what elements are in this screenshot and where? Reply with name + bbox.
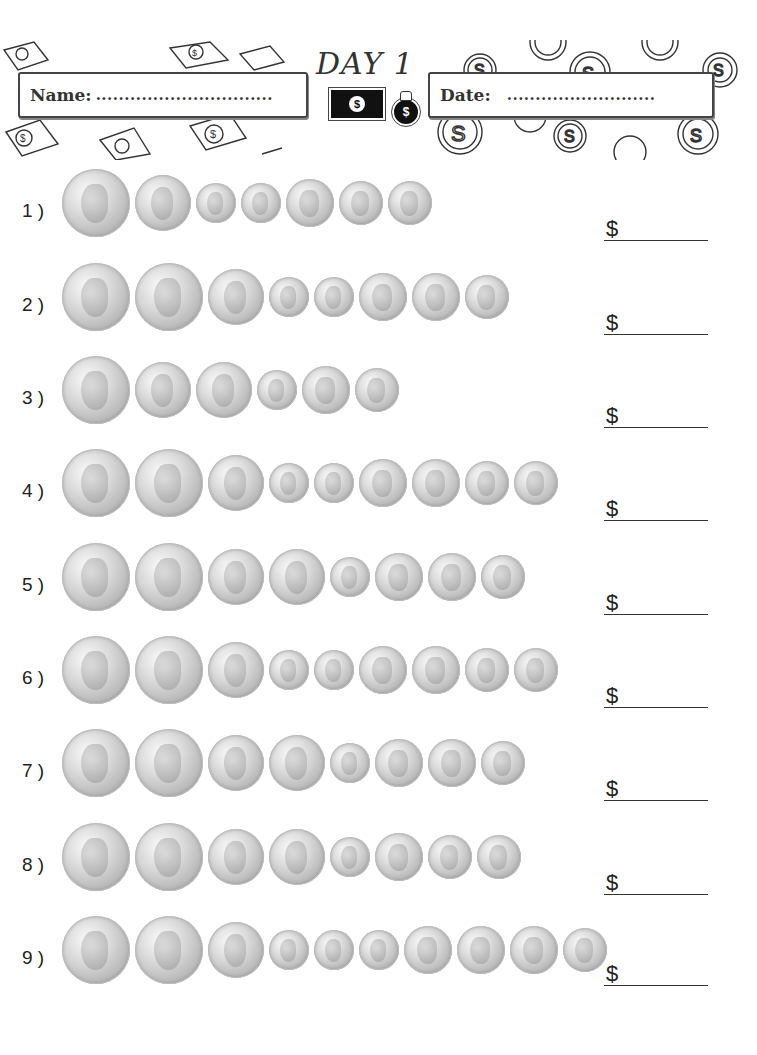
answer-blank[interactable]: $ xyxy=(604,770,708,801)
quarter-coin-icon xyxy=(208,922,264,978)
quarter-coin-icon xyxy=(208,269,264,325)
quarter-coin-icon xyxy=(269,735,325,791)
problem-number: 6 ) xyxy=(22,667,44,689)
problem-number: 2 ) xyxy=(22,294,44,316)
coin-group xyxy=(62,915,607,985)
nickel-coin-icon xyxy=(359,273,407,321)
answer-blank[interactable]: $ xyxy=(604,210,708,241)
problem-number: 7 ) xyxy=(22,760,44,782)
answer-blank[interactable]: $ xyxy=(604,304,708,335)
answer-blank[interactable]: $ xyxy=(604,490,708,521)
date-field[interactable]: Date: .......................... xyxy=(428,72,714,118)
name-label: Name: xyxy=(30,85,92,105)
penny-coin-icon xyxy=(477,835,521,879)
nickel-coin-icon xyxy=(375,833,423,881)
money-bag-icon: $ xyxy=(392,98,420,126)
dollar-sign: $ xyxy=(606,685,618,707)
answer-blank[interactable]: $ xyxy=(604,397,708,428)
penny-coin-icon xyxy=(514,461,558,505)
dime-coin-icon xyxy=(257,370,297,410)
half-dollar-coin-icon xyxy=(62,449,130,517)
coin-group xyxy=(62,168,432,238)
problem-row: 2 )$ xyxy=(0,254,757,347)
quarter-coin-icon xyxy=(208,829,264,885)
dime-coin-icon xyxy=(330,557,370,597)
problem-number: 3 ) xyxy=(22,387,44,409)
quarter-coin-icon xyxy=(208,735,264,791)
problem-row: 7 )$ xyxy=(0,720,757,813)
half-dollar-coin-icon xyxy=(62,543,130,611)
coin-group xyxy=(62,635,558,705)
dollar-sign: $ xyxy=(606,498,618,520)
coin-group xyxy=(62,728,525,798)
half-dollar-coin-icon xyxy=(135,449,203,517)
dime-coin-icon xyxy=(330,837,370,877)
name-field[interactable]: Name: ............................... xyxy=(18,72,308,118)
half-dollar-coin-icon xyxy=(62,356,130,424)
name-blank: ............................... xyxy=(96,86,273,104)
coin-group xyxy=(62,448,558,518)
nickel-coin-icon xyxy=(375,739,423,787)
nickel-coin-icon xyxy=(375,553,423,601)
coin-group xyxy=(62,262,509,332)
nickel-coin-icon xyxy=(412,646,460,694)
quarter-coin-icon xyxy=(269,549,325,605)
half-dollar-coin-icon xyxy=(135,729,203,797)
penny-coin-icon xyxy=(465,648,509,692)
problem-number: 8 ) xyxy=(22,854,44,876)
problem-row: 4 )$ xyxy=(0,440,757,533)
dollar-sign: $ xyxy=(606,872,618,894)
penny-coin-icon xyxy=(355,368,399,412)
svg-text:S: S xyxy=(564,128,575,145)
nickel-coin-icon xyxy=(286,179,334,227)
date-blank: .......................... xyxy=(507,86,656,104)
half-dollar-coin-icon xyxy=(135,823,203,891)
coin-group xyxy=(62,822,521,892)
half-dollar-coin-icon xyxy=(62,823,130,891)
problem-row: 8 )$ xyxy=(0,814,757,907)
half-dollar-coin-icon xyxy=(135,263,203,331)
nickel-coin-icon xyxy=(457,926,505,974)
quarter-coin-icon xyxy=(208,549,264,605)
problem-number: 1 ) xyxy=(22,200,44,222)
half-dollar-coin-icon xyxy=(62,263,130,331)
quarter-coin-icon xyxy=(208,642,264,698)
penny-coin-icon xyxy=(481,741,525,785)
dime-coin-icon xyxy=(241,183,281,223)
dime-coin-icon xyxy=(314,930,354,970)
penny-coin-icon xyxy=(563,928,607,972)
dime-coin-icon xyxy=(269,650,309,690)
dime-coin-icon xyxy=(196,183,236,223)
dime-coin-icon xyxy=(314,650,354,690)
nickel-coin-icon xyxy=(510,926,558,974)
problem-row: 1 )$ xyxy=(0,160,757,253)
svg-text:S: S xyxy=(713,62,724,79)
quarter-coin-icon xyxy=(269,829,325,885)
dollar-sign: $ xyxy=(606,963,618,985)
dollar-sign: $ xyxy=(606,778,618,800)
dime-coin-icon xyxy=(269,930,309,970)
nickel-coin-icon xyxy=(359,459,407,507)
half-dollar-coin-icon xyxy=(62,636,130,704)
nickel-coin-icon xyxy=(412,273,460,321)
answer-blank[interactable]: $ xyxy=(604,955,708,986)
answer-blank[interactable]: $ xyxy=(604,677,708,708)
answer-blank[interactable]: $ xyxy=(604,584,708,615)
nickel-coin-icon xyxy=(302,366,350,414)
answer-blank[interactable]: $ xyxy=(604,864,708,895)
problem-number: 5 ) xyxy=(22,574,44,596)
dollar-sign-icon: $ xyxy=(349,96,365,112)
money-bill-icon: $ xyxy=(329,88,385,120)
svg-text:S: S xyxy=(451,121,466,146)
dollar-sign: $ xyxy=(606,218,618,240)
svg-text:$: $ xyxy=(20,133,26,144)
dime-coin-icon xyxy=(314,277,354,317)
dime-coin-icon xyxy=(330,743,370,783)
problem-row: 3 )$ xyxy=(0,347,757,440)
dollar-sign: $ xyxy=(606,312,618,334)
dime-coin-icon xyxy=(269,277,309,317)
nickel-coin-icon xyxy=(428,553,476,601)
half-dollar-coin-icon xyxy=(135,543,203,611)
svg-text:$: $ xyxy=(210,128,216,140)
quarter-coin-icon xyxy=(196,362,252,418)
